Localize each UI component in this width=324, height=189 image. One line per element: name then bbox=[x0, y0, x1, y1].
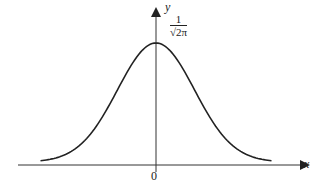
peak-denominator: √2π bbox=[170, 26, 187, 38]
origin-tick-label: 0 bbox=[151, 169, 157, 184]
x-axis-label: x bbox=[304, 157, 309, 172]
peak-numerator: 1 bbox=[170, 13, 187, 26]
peak-value-label: 1 √2π bbox=[170, 13, 187, 38]
y-axis-arrow-icon bbox=[151, 7, 161, 17]
normal-curve-plot bbox=[0, 0, 324, 189]
